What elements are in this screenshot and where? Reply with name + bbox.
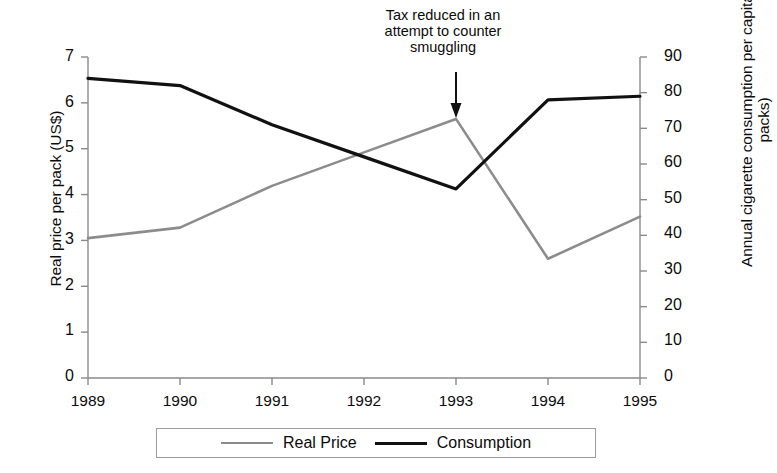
- legend-label-consumption: Consumption: [437, 434, 531, 452]
- right-tick-60: 60: [664, 153, 704, 171]
- x-tick-1989: 1989: [58, 392, 118, 410]
- right-axis-title-wrapper: Annual cigarette consumption per capita …: [738, 0, 777, 270]
- left-tick-4: 4: [34, 184, 74, 202]
- legend-swatch-real-price: [221, 442, 273, 444]
- x-axis-ticks: [88, 378, 640, 385]
- x-tick-1995: 1995: [610, 392, 670, 410]
- x-tick-1994: 1994: [518, 392, 578, 410]
- annotation-arrow-icon: [451, 72, 462, 118]
- right-axis-title: Annual cigarette consumption per capita …: [738, 0, 773, 270]
- annotation-line-1: Tax reduced in an: [328, 8, 558, 24]
- legend-swatch-consumption: [375, 442, 427, 445]
- annotation-line-3: smuggling: [328, 40, 558, 56]
- right-tick-30: 30: [664, 260, 704, 278]
- annotation-line-2: attempt to counter: [328, 24, 558, 40]
- left-tick-1: 1: [34, 321, 74, 339]
- right-tick-0: 0: [664, 367, 704, 385]
- right-tick-80: 80: [664, 82, 704, 100]
- series-line-consumption: [88, 78, 640, 189]
- right-tick-70: 70: [664, 118, 704, 136]
- right-axis-ticks: [640, 57, 647, 378]
- right-tick-20: 20: [664, 296, 704, 314]
- right-tick-90: 90: [664, 47, 704, 65]
- legend-label-real-price: Real Price: [283, 434, 357, 452]
- right-tick-10: 10: [664, 331, 704, 349]
- right-tick-50: 50: [664, 189, 704, 207]
- left-tick-3: 3: [34, 230, 74, 248]
- left-tick-2: 2: [34, 276, 74, 294]
- legend-item-consumption: Consumption: [375, 434, 531, 452]
- x-tick-1990: 1990: [150, 392, 210, 410]
- series-line-real-price: [88, 119, 640, 259]
- left-tick-0: 0: [34, 367, 74, 385]
- legend: Real Price Consumption: [156, 428, 596, 458]
- left-tick-5: 5: [34, 138, 74, 156]
- left-tick-6: 6: [34, 93, 74, 111]
- x-tick-1991: 1991: [242, 392, 302, 410]
- right-tick-40: 40: [664, 224, 704, 242]
- x-tick-1992: 1992: [334, 392, 394, 410]
- left-tick-7: 7: [34, 47, 74, 65]
- legend-item-real-price: Real Price: [221, 434, 357, 452]
- x-tick-1993: 1993: [426, 392, 486, 410]
- left-axis-ticks: [81, 57, 88, 378]
